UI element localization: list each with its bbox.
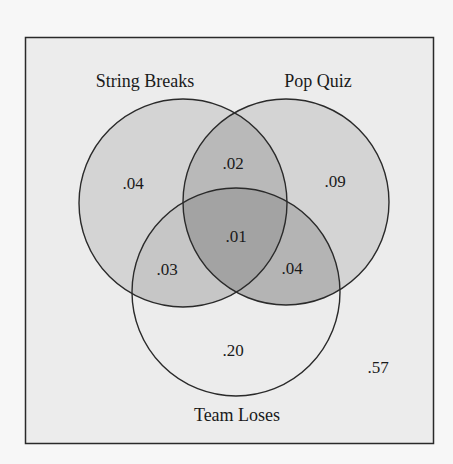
label-team-loses: Team Loses xyxy=(194,405,280,425)
value-pop-team: .04 xyxy=(281,259,303,278)
venn-diagram: String Breaks Pop Quiz Team Loses .04 .0… xyxy=(0,0,453,464)
value-all-three: .01 xyxy=(225,227,246,246)
value-string-pop: .02 xyxy=(222,154,243,173)
label-pop-quiz: Pop Quiz xyxy=(284,71,352,91)
value-none: .57 xyxy=(367,358,389,377)
value-string-team: .03 xyxy=(156,260,177,279)
value-pop-only: .09 xyxy=(324,172,345,191)
value-string-only: .04 xyxy=(122,174,144,193)
value-team-only: .20 xyxy=(222,341,243,360)
label-string-breaks: String Breaks xyxy=(96,71,195,91)
